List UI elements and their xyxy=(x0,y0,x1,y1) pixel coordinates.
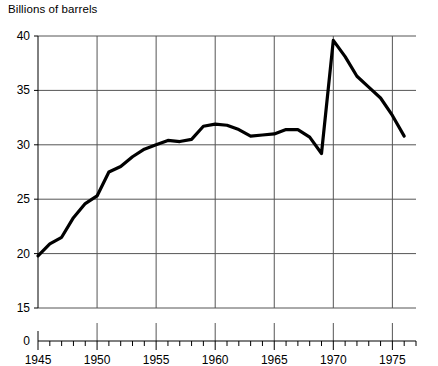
vertical-gridlines-group xyxy=(97,36,392,341)
y-tick-label: 15 xyxy=(17,301,31,315)
y-axis-ticks-group: 4035302520150 xyxy=(17,29,38,348)
x-tick-label: 1970 xyxy=(320,353,347,366)
x-tick-label: 1965 xyxy=(261,353,288,366)
y-tick-label: 30 xyxy=(17,138,31,152)
x-axis-ticks-group: 1945195019551960196519701975 xyxy=(25,341,416,366)
x-tick-label: 1950 xyxy=(84,353,111,366)
y-tick-label-zero: 0 xyxy=(23,334,30,348)
y-tick-label: 25 xyxy=(17,192,31,206)
x-tick-label: 1955 xyxy=(143,353,170,366)
y-tick-label: 40 xyxy=(17,29,31,43)
y-tick-label: 35 xyxy=(17,83,31,97)
line-chart-plot: 4035302520150 19451950195519601965197019… xyxy=(0,0,438,366)
x-axis-group xyxy=(38,36,416,341)
data-series-group xyxy=(38,40,404,255)
y-tick-label: 20 xyxy=(17,247,31,261)
data-series-line xyxy=(38,40,404,255)
x-tick-label: 1960 xyxy=(202,353,229,366)
chart-container: Billions of barrels 4035302520150 194519… xyxy=(0,0,438,366)
x-tick-label: 1945 xyxy=(25,353,52,366)
x-tick-label: 1975 xyxy=(379,353,406,366)
